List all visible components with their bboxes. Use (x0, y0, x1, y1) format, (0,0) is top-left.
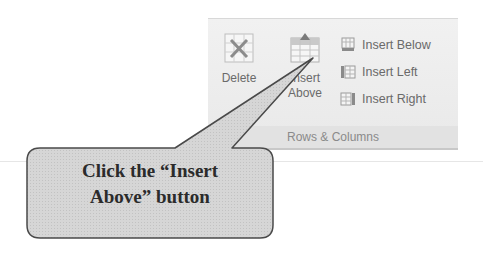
callout-bubble (0, 0, 483, 253)
callout-instruction: Click the “Insert Above” button (27, 158, 273, 210)
callout-line-2: Above” button (27, 184, 273, 210)
callout-line-1: Click the “Insert (27, 158, 273, 184)
